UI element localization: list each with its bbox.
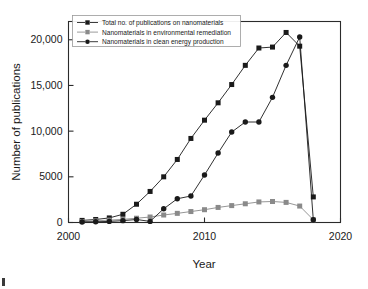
data-point-marker: [256, 199, 261, 204]
legend-square-marker: [85, 20, 89, 24]
chart-figure: 0500010,00015,00020,000 200020102020 Yea…: [0, 0, 368, 289]
legend-circle-marker: [85, 39, 90, 44]
data-point-marker: [148, 189, 153, 194]
data-point-marker: [202, 207, 207, 212]
data-point-marker: [202, 118, 207, 123]
data-point-marker: [283, 63, 288, 68]
x-axis-title: Year: [192, 258, 215, 270]
legend-square-marker: [85, 30, 89, 34]
data-point-marker: [79, 219, 84, 224]
data-point-marker: [161, 213, 166, 218]
data-point-marker: [215, 150, 220, 155]
data-point-marker: [243, 201, 248, 206]
y-tick-label: 5000: [39, 170, 63, 182]
data-point-marker: [270, 199, 275, 204]
legend-label: Nanomaterials in clean energy production: [102, 38, 224, 46]
corner-artifact: [2, 278, 5, 286]
data-point-marker: [229, 129, 234, 134]
y-tick-label: 15,000: [30, 79, 62, 91]
data-point-marker: [175, 211, 180, 216]
legend-label: Total no. of publications on nanomateria…: [102, 19, 224, 27]
y-tick-label: 20,000: [30, 33, 62, 45]
data-point-marker: [175, 157, 180, 162]
data-point-marker: [147, 219, 152, 224]
data-point-marker: [311, 217, 316, 222]
x-tick-label: 2000: [57, 230, 81, 242]
data-point-marker: [216, 205, 221, 210]
data-point-marker: [270, 45, 275, 50]
legend-label: Nanomaterials in environmental remediati…: [102, 29, 231, 36]
y-tick-label: 0: [57, 216, 63, 228]
data-point-marker: [93, 219, 98, 224]
x-tick-label: 2020: [329, 230, 353, 242]
data-point-marker: [229, 203, 234, 208]
data-point-marker: [243, 119, 248, 124]
data-point-marker: [188, 193, 193, 198]
chart-legend: Total no. of publications on nanomateria…: [73, 16, 241, 47]
y-axis-title: Number of publications: [10, 63, 22, 181]
publications-line-chart: 0500010,00015,00020,000 200020102020 Yea…: [0, 0, 368, 289]
data-point-marker: [161, 174, 166, 179]
data-point-marker: [256, 119, 261, 124]
data-point-marker: [134, 217, 139, 222]
data-point-marker: [107, 219, 112, 224]
data-point-marker: [161, 206, 166, 211]
data-point-marker: [216, 100, 221, 105]
data-point-marker: [256, 46, 261, 51]
data-point-marker: [243, 63, 248, 68]
data-point-marker: [120, 218, 125, 223]
data-point-marker: [270, 95, 275, 100]
y-tick-label: 10,000: [30, 125, 62, 137]
data-point-marker: [297, 44, 302, 49]
data-point-marker: [175, 196, 180, 201]
data-point-marker: [297, 204, 302, 209]
data-point-marker: [120, 212, 125, 217]
data-point-marker: [188, 136, 193, 141]
data-point-marker: [188, 209, 193, 214]
data-point-marker: [229, 82, 234, 87]
x-tick-label: 2010: [193, 230, 217, 242]
data-point-marker: [297, 34, 302, 39]
data-point-marker: [284, 30, 289, 35]
data-point-marker: [202, 172, 207, 177]
data-point-marker: [284, 200, 289, 205]
data-point-marker: [134, 202, 139, 207]
